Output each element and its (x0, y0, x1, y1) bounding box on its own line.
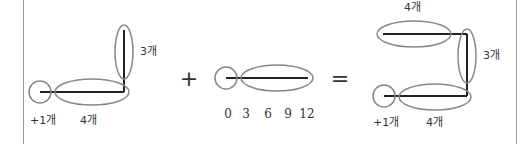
tick-label: 6 (264, 107, 272, 121)
left-figure: 3개 4개 +1개 (29, 25, 157, 127)
left-horizontal-label: 4개 (80, 114, 97, 127)
right-bottom-label: 4개 (426, 116, 443, 129)
left-circle-label: +1개 (30, 114, 56, 127)
left-vertical-label: 3개 (140, 45, 157, 58)
tick-label: 3 (242, 107, 250, 121)
middle-figure: 0 3 6 9 12 (215, 65, 315, 121)
equation-diagram: 3개 4개 +1개 + 0 3 6 9 12 = 4개 3개 4개 +1개 (0, 0, 531, 144)
plus-operator: + (180, 66, 198, 91)
right-circle-label: +1개 (373, 116, 399, 129)
equals-operator: = (331, 66, 349, 91)
right-figure: 4개 3개 4개 +1개 (373, 1, 500, 129)
tick-label: 9 (284, 107, 292, 121)
tick-label: 0 (224, 107, 232, 121)
right-vertical-label: 3개 (483, 49, 500, 62)
right-top-label: 4개 (404, 1, 421, 14)
tick-label: 12 (299, 107, 314, 121)
